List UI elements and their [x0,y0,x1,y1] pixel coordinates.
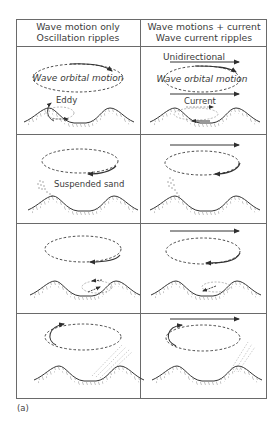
label-unidirectional: Unidirectional [163,52,225,62]
cell-r3-left [30,236,140,299]
cell-r1-right: Unidirectional Wave orbital motion Curre… [150,52,260,126]
cell-r2-left: Suspended sand [28,149,138,214]
suspended-sand-dots-r2l [37,180,52,196]
label-suspended-sand: Suspended sand [54,179,124,189]
label-current: Current [184,96,217,106]
label-wave-orbital-motion-right: Wave orbital motion [157,74,248,84]
figure-caption: (a) [17,403,29,413]
wave-ripple-diagram: Wave motion only Oscillation ripples Wav… [0,0,279,431]
suspended-sand-dots-r2r [167,177,179,196]
label-eddy: Eddy [56,95,77,105]
diagram-cells: Wave orbital motion Eddy Unidirectional … [0,0,279,431]
cell-r2-right [150,145,260,214]
label-wave-orbital-motion-left: Wave orbital motion [33,73,124,83]
cell-r1-left: Wave orbital motion Eddy [24,64,134,126]
cell-r4-right [152,319,262,384]
cell-r4-left [34,324,144,384]
cell-r3-right [151,231,261,299]
